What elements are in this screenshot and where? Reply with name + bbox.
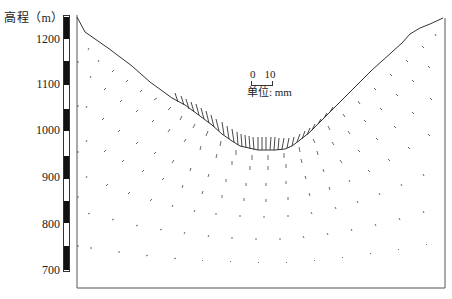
- scale-unit-label: 单位: mm: [247, 87, 292, 98]
- scale-zero-label: 0: [250, 69, 256, 80]
- scale-ten-label: 10: [265, 69, 276, 80]
- vector-field-plot: [0, 0, 452, 299]
- scale-bar-legend: 0 10 单位: mm: [247, 69, 292, 98]
- scale-bar-values: 0 10: [247, 69, 292, 80]
- surface-displacement-vectors: [175, 93, 333, 150]
